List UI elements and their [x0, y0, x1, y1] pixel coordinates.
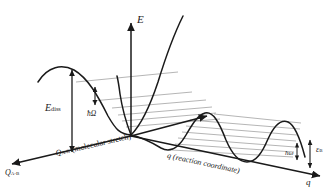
diagram-svg: [0, 0, 333, 193]
h-omega-small-label: ħω: [285, 150, 293, 157]
energy-axis-label: E: [137, 14, 144, 25]
potential-curves: [38, 16, 305, 162]
h-omega-big-label: ħΩ: [87, 110, 96, 118]
molecular-stretch-axis-label: QA-B: [5, 169, 19, 177]
diagram-canvas: E Ediss ħΩ ħω εB QA-B (molecular stretch…: [0, 0, 333, 193]
e-diss-label: Ediss: [45, 103, 61, 113]
eps-b-label: εB: [316, 146, 322, 154]
harmonic-well-curve: [131, 16, 183, 135]
reaction-coordinate-axis-label: q: [306, 178, 311, 187]
harmonic-well-left-wall: [117, 76, 131, 135]
